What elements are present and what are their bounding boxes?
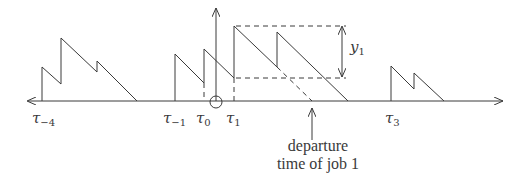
- label-tau-3: τ3: [385, 111, 400, 128]
- sawtooth-busy-period-tau-1: [234, 26, 348, 101]
- label-y1: y1: [350, 40, 365, 57]
- label-tau-0: τ0: [196, 111, 211, 128]
- label-tau-1: τ1: [226, 111, 241, 128]
- sawtooth-busy-period-tau-m4: [42, 38, 137, 101]
- caption-line-1: departure: [263, 137, 373, 155]
- label-tau-m1: τ−1: [163, 111, 186, 128]
- label-tau-m4: τ−4: [32, 111, 55, 128]
- departure-caption: departure time of job 1: [263, 137, 373, 173]
- sawtooth-busy-period-tau-3: [391, 66, 444, 101]
- workload-diagram: τ−4 τ−1 τ0 τ1 τ3 y1 departure time of jo…: [0, 0, 527, 175]
- caption-line-2: time of job 1: [263, 155, 373, 173]
- dashed-departure-job-1: [277, 67, 312, 101]
